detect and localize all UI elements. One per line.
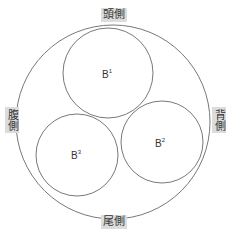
label-b2-base: B	[155, 138, 162, 149]
label-ventral: 腹側	[5, 107, 19, 133]
bronchial-segment-diagram	[0, 0, 228, 238]
outer-circle	[16, 25, 210, 219]
label-b3-base: B	[71, 150, 78, 161]
label-b3-sup: 3	[78, 149, 81, 155]
label-cranial: 頭側	[101, 8, 127, 22]
label-b2: B2	[155, 137, 165, 149]
label-b3: B3	[71, 149, 81, 161]
label-b2-sup: 2	[162, 137, 165, 143]
label-b1-sup: 1	[109, 68, 112, 74]
label-caudal: 尾側	[101, 215, 127, 229]
label-dorsal: 背側	[212, 107, 226, 133]
label-b1: B1	[102, 68, 112, 80]
label-b1-base: B	[102, 69, 109, 80]
